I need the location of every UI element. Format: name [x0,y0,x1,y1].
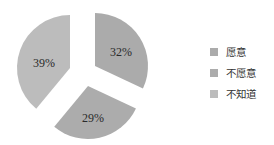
pie-slice-unwilling-label: 29% [82,111,104,125]
legend-item-willing: 愿意 [210,41,256,62]
legend-label-willing: 愿意 [226,44,246,59]
legend-swatch-willing [210,48,218,56]
legend-swatch-unwilling [210,69,218,77]
legend-label-unwilling: 不愿意 [226,65,256,80]
pie-slice-willing-label: 32% [110,45,132,59]
legend: 愿意 不愿意 不知道 [210,41,256,104]
legend-swatch-unknown [210,90,218,98]
legend-item-unknown: 不知道 [210,83,256,104]
pie-slices: 32%29%39% [17,13,148,139]
legend-label-unknown: 不知道 [226,86,256,101]
pie-slice-unknown-label: 39% [33,56,55,70]
legend-item-unwilling: 不愿意 [210,62,256,83]
